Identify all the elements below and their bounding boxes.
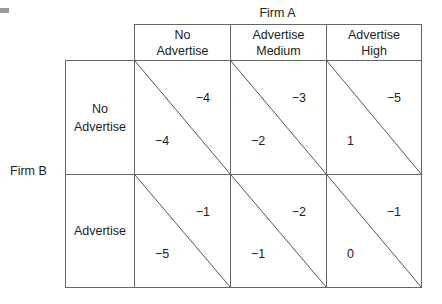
row-header: No Advertise [65,60,135,175]
column-header: No Advertise [134,24,231,61]
payoff-cell: −1−5 [134,174,231,288]
firm-a-payoff: −5 [387,91,401,105]
firm-a-payoff: −4 [196,91,210,105]
column-header: Advertise High [326,24,422,61]
firm-a-payoff: −2 [292,205,306,219]
payoff-cell: −4−4 [134,60,231,175]
firm-b-label: Firm B [10,164,47,178]
diagonal-divider [135,61,232,176]
row-header-label: No Advertise [74,100,126,136]
diagonal-divider [231,61,328,176]
column-header-label: Advertise High [348,27,400,59]
firm-b-payoff: −2 [251,134,265,148]
diagonal-divider [327,175,423,289]
firm-a-payoff: −1 [387,205,401,219]
diagonal-divider [135,175,232,289]
firm-b-payoff: −5 [155,247,169,261]
diagonal-divider [231,175,328,289]
firm-b-payoff: 1 [347,134,354,148]
firm-b-payoff: −1 [251,247,265,261]
firm-b-payoff: 0 [347,247,354,261]
diagonal-divider [327,61,423,176]
corner-mark [0,8,9,13]
payoff-cell: −2−1 [230,174,327,288]
firm-a-label: Firm A [134,6,421,20]
payoff-cell: −51 [326,60,422,175]
firm-b-payoff: −4 [155,134,169,148]
row-header-label: Advertise [74,222,126,240]
column-header-label: No Advertise [156,27,208,59]
firm-a-payoff: −1 [196,205,210,219]
firm-a-payoff: −3 [292,91,306,105]
payoff-cell: −3−2 [230,60,327,175]
payoff-cell: −10 [326,174,422,288]
column-header: Advertise Medium [230,24,327,61]
column-header-label: Advertise Medium [252,27,304,59]
row-header: Advertise [65,174,135,288]
